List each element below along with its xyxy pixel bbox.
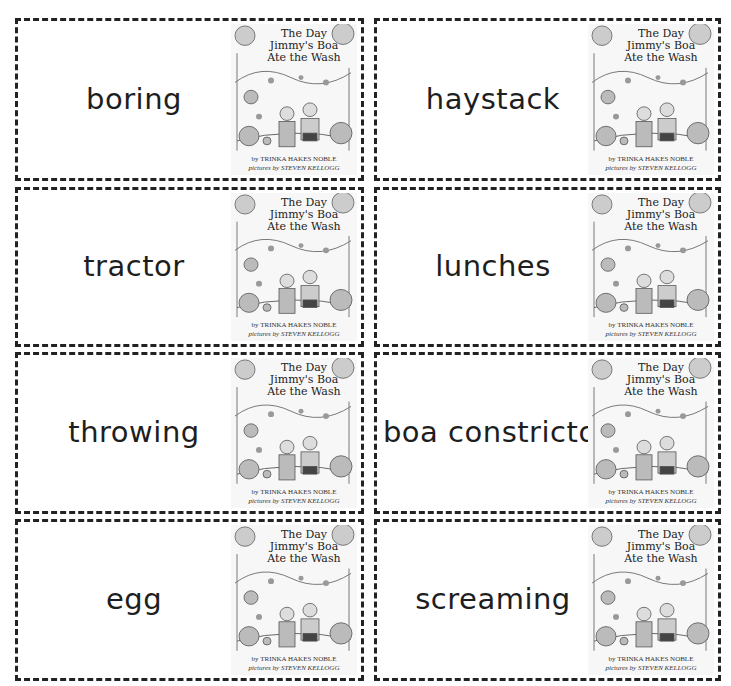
cover-title: The Day Jimmy's Boa Ate the Wash (616, 362, 706, 398)
cover-title: The Day Jimmy's Boa Ate the Wash (259, 362, 349, 398)
vocabulary-word: boring (18, 21, 250, 178)
vocabulary-card: tractor (15, 187, 364, 347)
cover-title: The Day Jimmy's Boa Ate the Wash (259, 197, 349, 233)
cover-illustrator: pictures by STEVEN KELLOGG (231, 330, 357, 338)
vocabulary-card: boa constrictor (374, 352, 721, 514)
book-cover-image: The Day Jimmy's Boa Ate the Wash by TRIN… (231, 24, 357, 175)
vocabulary-word: lunches (377, 190, 609, 344)
cover-title: The Day Jimmy's Boa Ate the Wash (259, 529, 349, 565)
vocabulary-card: screaming (374, 519, 721, 681)
cover-title-line: Ate the Wash (616, 386, 706, 398)
cover-author: by TRINKA HAKES NOBLE (231, 655, 357, 663)
vocabulary-word: throwing (18, 355, 250, 511)
book-cover-image: The Day Jimmy's Boa Ate the Wash by TRIN… (588, 358, 714, 508)
cover-title-line: Ate the Wash (616, 221, 706, 233)
vocabulary-card: boring (15, 18, 364, 181)
vocabulary-word: haystack (377, 21, 609, 178)
cover-illustrator: pictures by STEVEN KELLOGG (588, 330, 714, 338)
book-cover-image: The Day Jimmy's Boa Ate the Wash by TRIN… (231, 193, 357, 341)
cover-title-line: Ate the Wash (259, 553, 349, 565)
cover-title: The Day Jimmy's Boa Ate the Wash (259, 28, 349, 64)
cover-title: The Day Jimmy's Boa Ate the Wash (616, 529, 706, 565)
cover-title: The Day Jimmy's Boa Ate the Wash (616, 28, 706, 64)
cover-author: by TRINKA HAKES NOBLE (231, 155, 357, 163)
cover-author: by TRINKA HAKES NOBLE (588, 488, 714, 496)
book-cover-image: The Day Jimmy's Boa Ate the Wash by TRIN… (588, 193, 714, 341)
vocabulary-card: egg (15, 519, 364, 681)
cover-author: by TRINKA HAKES NOBLE (588, 155, 714, 163)
cover-author: by TRINKA HAKES NOBLE (588, 655, 714, 663)
vocabulary-word: tractor (18, 190, 250, 344)
cover-title-line: Ate the Wash (616, 553, 706, 565)
cover-author: by TRINKA HAKES NOBLE (231, 488, 357, 496)
vocabulary-card: haystack (374, 18, 721, 181)
book-cover-image: The Day Jimmy's Boa Ate the Wash by TRIN… (588, 24, 714, 175)
cover-author: by TRINKA HAKES NOBLE (588, 321, 714, 329)
vocabulary-word: boa constrictor (377, 355, 615, 511)
book-cover-image: The Day Jimmy's Boa Ate the Wash by TRIN… (231, 358, 357, 508)
cover-title: The Day Jimmy's Boa Ate the Wash (616, 197, 706, 233)
cover-illustrator: pictures by STEVEN KELLOGG (588, 164, 714, 172)
cover-title-line: Ate the Wash (616, 52, 706, 64)
vocabulary-card: lunches (374, 187, 721, 347)
cover-illustrator: pictures by STEVEN KELLOGG (231, 497, 357, 505)
book-cover-image: The Day Jimmy's Boa Ate the Wash by TRIN… (231, 525, 357, 675)
cover-illustrator: pictures by STEVEN KELLOGG (231, 164, 357, 172)
cover-author: by TRINKA HAKES NOBLE (231, 321, 357, 329)
cover-illustrator: pictures by STEVEN KELLOGG (588, 664, 714, 672)
book-cover-image: The Day Jimmy's Boa Ate the Wash by TRIN… (588, 525, 714, 675)
vocabulary-card: throwing (15, 352, 364, 514)
cover-title-line: Ate the Wash (259, 386, 349, 398)
cover-title-line: Ate the Wash (259, 221, 349, 233)
cover-illustrator: pictures by STEVEN KELLOGG (231, 664, 357, 672)
cover-title-line: Ate the Wash (259, 52, 349, 64)
vocabulary-word: egg (18, 522, 250, 678)
vocabulary-word: screaming (377, 522, 609, 678)
cover-illustrator: pictures by STEVEN KELLOGG (588, 497, 714, 505)
